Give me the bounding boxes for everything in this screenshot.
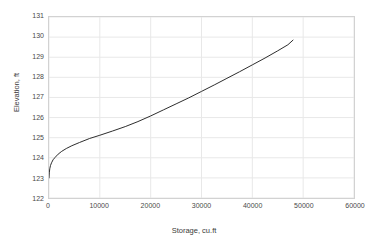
y-tick-label: 129 [0,53,44,61]
y-tick-label: 127 [0,93,44,101]
data-series-line [49,17,354,198]
x-tick-label: 0 [46,202,50,210]
y-tick-label: 125 [0,134,44,142]
y-tick-label: 131 [0,12,44,20]
x-tick-label: 30000 [192,202,211,210]
y-tick-label: 124 [0,154,44,162]
y-tick-label: 130 [0,32,44,40]
chart-container: Elevation, ft 12212312412512612712812913… [0,0,388,245]
x-tick-label: 10000 [89,202,108,210]
y-tick-label: 128 [0,73,44,81]
x-tick-label: 20000 [141,202,160,210]
y-tick-label: 122 [0,195,44,203]
x-tick-label: 50000 [294,202,313,210]
plot-area [48,16,355,199]
x-tick-label: 60000 [345,202,364,210]
y-tick-label: 126 [0,114,44,122]
x-tick-label: 40000 [243,202,262,210]
x-axis-title: Storage, cu.ft [0,226,388,235]
y-tick-label: 123 [0,175,44,183]
